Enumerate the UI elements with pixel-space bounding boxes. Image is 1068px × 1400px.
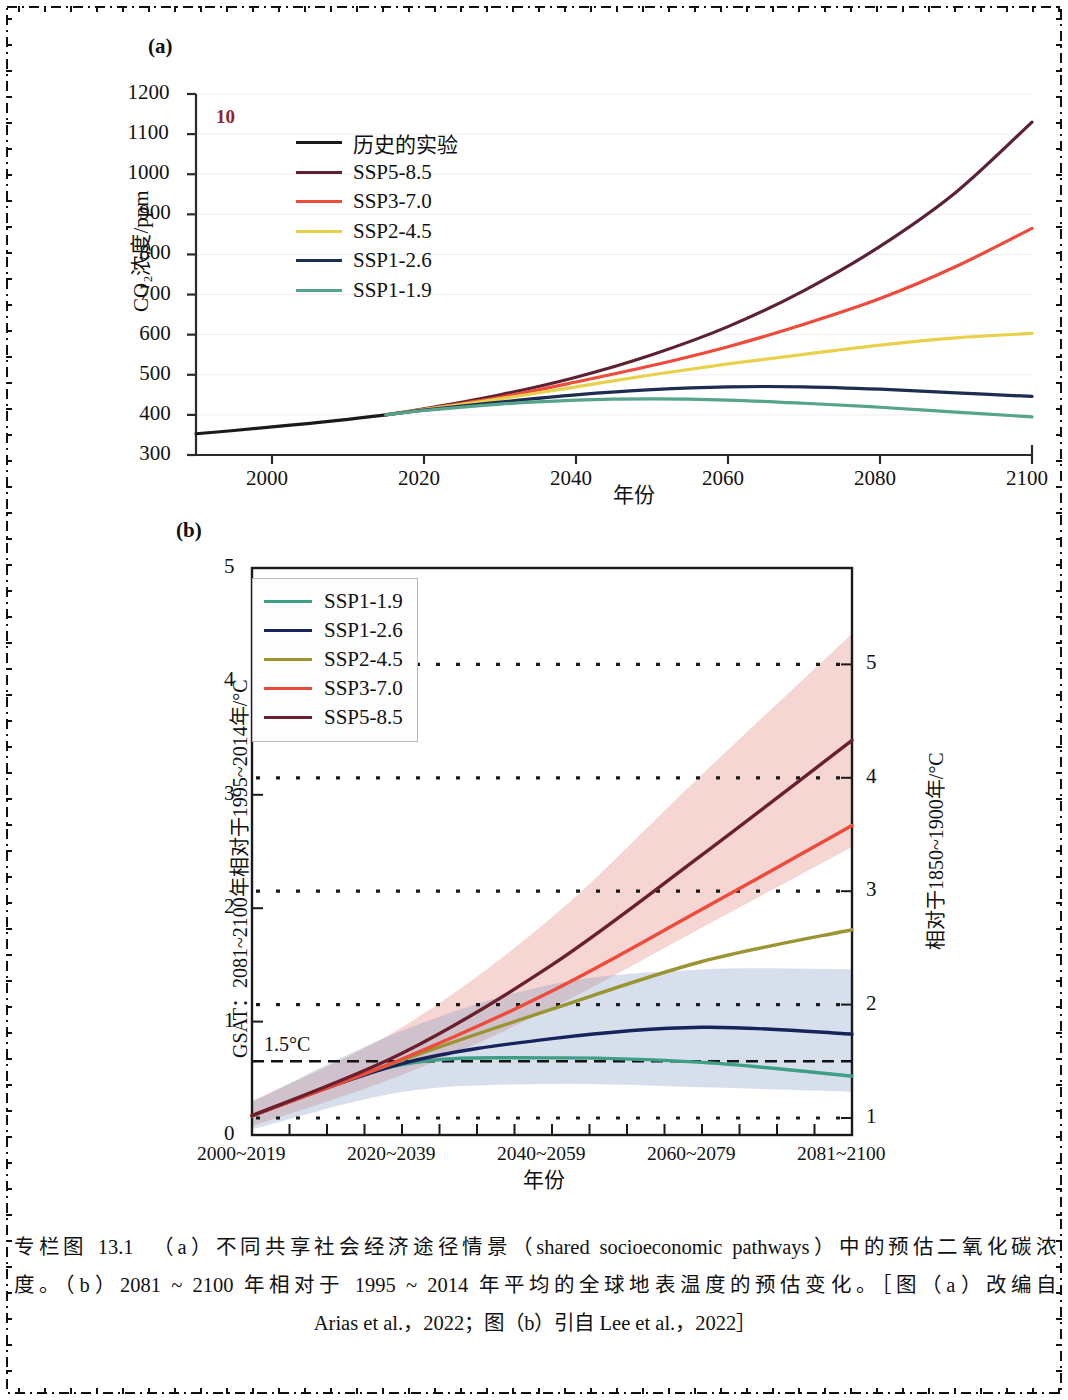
panel-b-legend: SSP1-1.9SSP1-2.6SSP2-4.5SSP3-7.0SSP5-8.5 (252, 578, 418, 742)
figure-container: (a) 10 300400500600700800900100011001200… (0, 0, 1068, 1400)
panel-a-legend-item-2: SSP3-7.0 (296, 187, 458, 217)
panel-b-right-ytick-1: 1 (866, 1104, 877, 1129)
panel-a-xtick-2080: 2080 (854, 466, 896, 491)
panel-a-legend-item-1: SSP5-8.5 (296, 158, 458, 188)
panel-b-xaxis-title: 年份 (523, 1163, 565, 1193)
panel-a-xtick-2060: 2060 (702, 466, 744, 491)
panel-a-ytick-500: 500 (139, 361, 171, 386)
panel-b-legend-label: SSP1-2.6 (324, 618, 403, 643)
panel-b-legend-item-3: SSP3-7.0 (264, 674, 403, 703)
panel-b-right-yaxis-title: 相对于1850~1900年/°C (920, 752, 949, 950)
legend-swatch-icon (296, 141, 342, 144)
panel-a-ytick-1200: 1200 (128, 80, 170, 105)
panel-b-threshold-label: 1.5°C (264, 1033, 310, 1056)
panel-a-line-SSP5-8.5 (386, 122, 1032, 415)
panel-a-legend-label: SSP1-1.9 (353, 278, 432, 303)
panel-a-legend: 历史的实验SSP5-8.5SSP3-7.0SSP2-4.5SSP1-2.6SSP… (296, 128, 458, 305)
panel-a-legend-item-0: 历史的实验 (296, 128, 458, 158)
legend-swatch-icon (296, 230, 342, 233)
panel-a-legend-item-3: SSP2-4.5 (296, 217, 458, 247)
panel-a-legend-item-5: SSP1-1.9 (296, 276, 458, 306)
panel-b-xtick-0: 2000~2019 (197, 1143, 286, 1165)
panel-a-legend-label: SSP2-4.5 (353, 219, 432, 244)
panel-b-legend-label: SSP2-4.5 (324, 647, 403, 672)
legend-swatch-icon (264, 629, 312, 632)
panel-a-ytick-1100: 1100 (128, 120, 169, 145)
panel-a-legend-label: 历史的实验 (353, 128, 458, 158)
panel-a-line-历史的实验 (196, 415, 386, 434)
panel-a-xtick-2040: 2040 (550, 466, 592, 491)
panel-a-xtick-2020: 2020 (398, 466, 440, 491)
panel-b-right-ytick-3: 3 (866, 877, 877, 902)
legend-swatch-icon (296, 200, 342, 203)
panel-b-xtick-3: 2060~2079 (647, 1143, 736, 1165)
panel-b-xtick-1: 2020~2039 (347, 1143, 436, 1165)
legend-swatch-icon (264, 658, 312, 661)
panel-b-legend-item-0: SSP1-1.9 (264, 587, 403, 616)
panel-b-legend-label: SSP1-1.9 (324, 589, 403, 614)
caption-line-2: 度。（b）2081 ~ 2100 年相对于 1995 ~ 2014 年平均的全球… (14, 1266, 1056, 1304)
panel-a-legend-label: SSP1-2.6 (353, 248, 432, 273)
panel-b-xtick-2: 2040~2059 (497, 1143, 586, 1165)
panel-a-xtick-2000: 2000 (246, 466, 288, 491)
panel-a-ytick-600: 600 (139, 321, 171, 346)
legend-swatch-icon (296, 171, 342, 174)
panel-b-right-ytick-5: 5 (866, 650, 877, 675)
panel-a-xtick-2100: 2100 (1006, 466, 1048, 491)
figure-caption: 专栏图 13.1 （a）不同共享社会经济途径情景（shared socioeco… (14, 1228, 1056, 1342)
panel-b-right-ytick-2: 2 (866, 991, 877, 1016)
panel-b-left-ytick-5: 5 (224, 554, 235, 579)
panel-a-ytick-1000: 1000 (128, 160, 170, 185)
panel-b-left-yaxis-title: GSAT：2081~2100年相对于1995~2014年/°C (224, 679, 253, 1058)
panel-b-legend-label: SSP5-8.5 (324, 705, 403, 730)
panel-a-legend-label: SSP3-7.0 (353, 189, 432, 214)
legend-swatch-icon (264, 716, 312, 719)
panel-b-legend-item-2: SSP2-4.5 (264, 645, 403, 674)
panel-b-legend-item-1: SSP1-2.6 (264, 616, 403, 645)
caption-line-1: 专栏图 13.1 （a）不同共享社会经济途径情景（shared socioeco… (14, 1228, 1056, 1266)
legend-swatch-icon (264, 600, 312, 603)
panel-a-legend-label: SSP5-8.5 (353, 160, 432, 185)
panel-a-ytick-300: 300 (139, 441, 171, 466)
panel-a-legend-item-4: SSP1-2.6 (296, 246, 458, 276)
panel-a-yaxis-title: CO₂浓度/ppm (124, 190, 154, 312)
panel-b-legend-item-4: SSP5-8.5 (264, 703, 403, 732)
panel-a-xaxis-title: 年份 (613, 478, 655, 508)
panel-b-chart (0, 510, 1068, 1190)
legend-swatch-icon (296, 289, 342, 292)
panel-b-legend-label: SSP3-7.0 (324, 676, 403, 701)
legend-swatch-icon (296, 259, 342, 262)
legend-swatch-icon (264, 687, 312, 690)
panel-a-ytick-400: 400 (139, 401, 171, 426)
panel-b-xtick-4: 2081~2100 (797, 1143, 886, 1165)
panel-b-right-ytick-4: 4 (866, 764, 877, 789)
caption-line-3: Arias et al.，2022；图（b）引自 Lee et al.，2022… (14, 1304, 1056, 1342)
